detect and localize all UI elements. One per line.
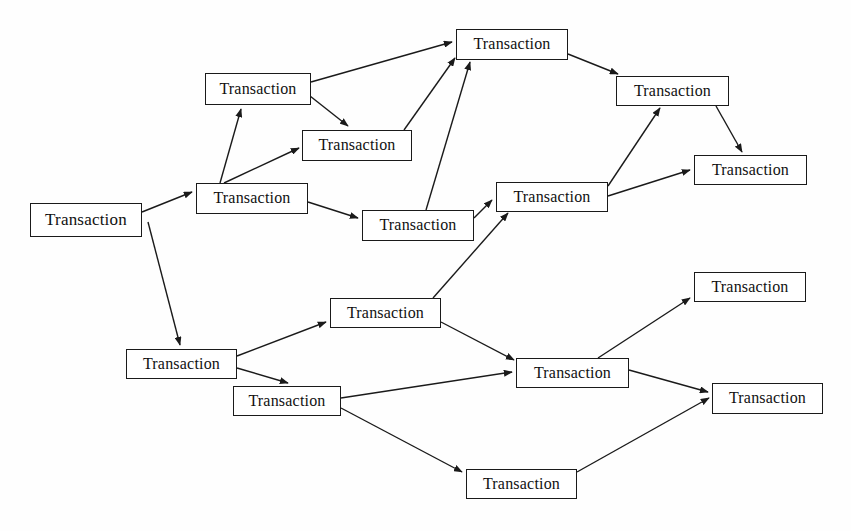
edge-n2-to-n6: [311, 42, 452, 82]
transaction-node[interactable]: Transaction: [205, 73, 311, 105]
transaction-node[interactable]: Transaction: [330, 298, 441, 328]
edge-n7-to-n8: [608, 108, 660, 186]
edge-n10-to-n11: [237, 322, 326, 356]
transaction-node-label: Transaction: [45, 211, 127, 229]
edge-n4-to-n5: [308, 202, 358, 218]
transaction-node-label: Transaction: [347, 305, 424, 322]
transaction-node[interactable]: Transaction: [712, 383, 823, 414]
transaction-node[interactable]: Transaction: [196, 183, 308, 214]
edge-n13-to-n15: [629, 370, 708, 392]
transaction-node-label: Transaction: [219, 81, 296, 98]
transaction-node-label: Transaction: [248, 393, 325, 410]
transaction-node-label: Transaction: [318, 137, 395, 154]
edge-n13-to-n14: [598, 298, 690, 358]
transaction-graph-diagram: TransactionTransactionTransactionTransac…: [0, 0, 851, 531]
transaction-node-label: Transaction: [711, 279, 788, 296]
transaction-node[interactable]: Transaction: [126, 349, 237, 379]
edge-n12-to-n16: [341, 408, 462, 472]
transaction-node[interactable]: Transaction: [694, 155, 807, 185]
edge-n1-to-n10: [148, 222, 180, 345]
transaction-node[interactable]: Transaction: [616, 76, 729, 106]
edge-n10-to-n12: [237, 368, 288, 383]
transaction-node-label: Transaction: [513, 189, 590, 206]
transaction-node[interactable]: Transaction: [516, 358, 629, 388]
edge-n4-to-n3: [224, 148, 299, 183]
transaction-node[interactable]: Transaction: [362, 210, 474, 241]
edge-n1-to-n4: [142, 192, 192, 212]
edge-n11-to-n13: [441, 322, 514, 360]
transaction-node-label: Transaction: [634, 83, 711, 100]
edge-n12-to-n13: [341, 372, 512, 398]
edge-n5-to-n6: [426, 62, 470, 210]
edge-n8-to-n9: [716, 106, 742, 152]
transaction-node-label: Transaction: [213, 190, 290, 207]
transaction-node-label: Transaction: [534, 365, 611, 382]
edge-n6-to-n8: [568, 54, 618, 74]
transaction-node[interactable]: Transaction: [694, 272, 806, 302]
transaction-node-label: Transaction: [729, 390, 806, 407]
edge-n4-to-n2: [220, 109, 241, 183]
transaction-node[interactable]: Transaction: [302, 130, 412, 161]
edge-n2-to-n3: [310, 96, 348, 126]
transaction-node-label: Transaction: [712, 162, 789, 179]
transaction-node[interactable]: Transaction: [456, 29, 568, 60]
edge-n5-to-n7: [474, 200, 492, 218]
edge-n16-to-n15: [577, 398, 709, 472]
transaction-node-label: Transaction: [483, 476, 560, 493]
transaction-node-label: Transaction: [143, 356, 220, 373]
transaction-node[interactable]: Transaction: [30, 203, 142, 237]
transaction-node[interactable]: Transaction: [233, 386, 341, 416]
edge-group: [142, 42, 742, 472]
transaction-node-label: Transaction: [473, 36, 550, 53]
transaction-node[interactable]: Transaction: [496, 182, 608, 212]
edge-n7-to-n9: [608, 170, 690, 196]
edge-n3-to-n6: [404, 58, 455, 130]
transaction-node[interactable]: Transaction: [466, 469, 577, 499]
transaction-node-label: Transaction: [379, 217, 456, 234]
